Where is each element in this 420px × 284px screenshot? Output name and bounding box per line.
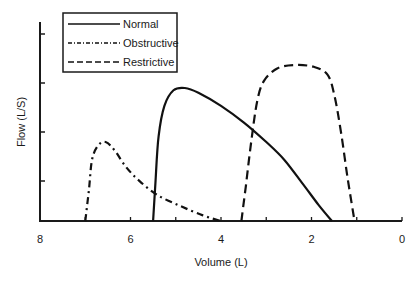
x-tick-label: 0 (399, 233, 405, 245)
legend-label: Restrictive (123, 56, 174, 68)
series-line-restrictive (241, 65, 354, 221)
series-lines (85, 65, 354, 221)
legend-label: Normal (123, 18, 158, 30)
legend-label: Obstructive (123, 37, 179, 49)
x-tick-label: 8 (37, 233, 43, 245)
y-axis-title: Flow (L/S) (15, 97, 27, 147)
legend: Normal Obstructive Restrictive (63, 13, 179, 72)
x-tick-label: 4 (218, 233, 224, 245)
x-tick-label: 6 (127, 233, 133, 245)
series-line-normal (153, 88, 332, 221)
flow-volume-chart: 86420 Volume (L) Flow (L/S) Normal Obstr… (0, 0, 420, 284)
x-tick-labels: 86420 (37, 233, 405, 245)
x-axis-title: Volume (L) (194, 256, 247, 268)
x-tick-label: 2 (308, 233, 314, 245)
